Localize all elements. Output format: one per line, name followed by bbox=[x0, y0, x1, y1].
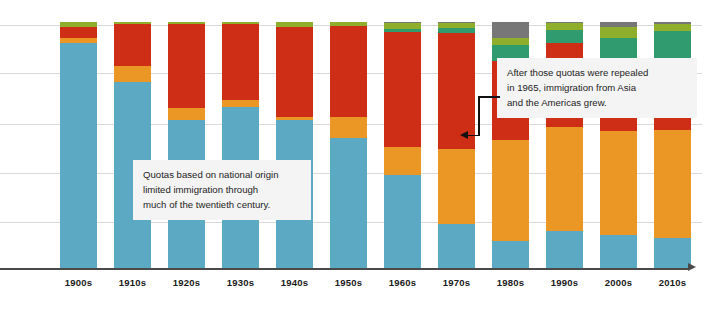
x-tick-2010s: 2010s bbox=[646, 277, 700, 288]
bar-segment bbox=[384, 147, 421, 174]
x-tick-1960s: 1960s bbox=[376, 277, 430, 288]
x-axis-arrow-icon bbox=[688, 263, 696, 271]
bar-segment bbox=[492, 22, 529, 38]
bar-segment bbox=[438, 33, 475, 149]
bar-segment bbox=[114, 24, 151, 66]
bar-segment bbox=[546, 23, 583, 30]
bar-segment bbox=[330, 26, 367, 117]
callout-arrow-icon bbox=[460, 131, 468, 139]
bar-1900s bbox=[60, 22, 97, 268]
bar-1920s bbox=[168, 22, 205, 268]
x-tick-1930s: 1930s bbox=[214, 277, 268, 288]
bar-segment bbox=[222, 100, 259, 107]
x-tick-1910s: 1910s bbox=[106, 277, 160, 288]
bar-segment bbox=[492, 140, 529, 241]
bar-segment bbox=[276, 27, 313, 117]
bar-segment bbox=[60, 43, 97, 268]
callout-connector-segment bbox=[478, 96, 500, 98]
bar-1930s bbox=[222, 22, 259, 268]
stacked-bar-chart: 1900s1910s1920s1930s1940s1950s1960s1970s… bbox=[0, 0, 718, 314]
bar-segment bbox=[168, 108, 205, 120]
bar-segment bbox=[546, 30, 583, 42]
callout-connector-segment bbox=[478, 96, 480, 136]
bar-segment bbox=[600, 27, 637, 38]
annotation-quotas: Quotas based on national origin limited … bbox=[133, 160, 311, 220]
bar-1970s bbox=[438, 22, 475, 268]
bar-segment bbox=[438, 149, 475, 224]
bar-segment bbox=[384, 175, 421, 268]
bar-segment bbox=[546, 127, 583, 231]
x-tick-1950s: 1950s bbox=[322, 277, 376, 288]
bar-segment bbox=[438, 224, 475, 268]
x-tick-1990s: 1990s bbox=[538, 277, 592, 288]
bar-segment bbox=[114, 66, 151, 82]
bar-segment bbox=[600, 235, 637, 268]
bar-1960s bbox=[384, 22, 421, 268]
bar-segment bbox=[654, 130, 691, 238]
bar-1940s bbox=[276, 22, 313, 268]
bar-segment bbox=[384, 32, 421, 148]
bar-segment bbox=[60, 27, 97, 38]
bar-segment bbox=[168, 24, 205, 108]
bar-segment bbox=[492, 241, 529, 268]
bar-1910s bbox=[114, 22, 151, 268]
bar-1950s bbox=[330, 22, 367, 268]
x-tick-1980s: 1980s bbox=[484, 277, 538, 288]
x-axis-line bbox=[0, 268, 690, 270]
bar-segment bbox=[222, 24, 259, 99]
x-tick-1920s: 1920s bbox=[160, 277, 214, 288]
bar-segment bbox=[654, 238, 691, 268]
bar-segment bbox=[330, 138, 367, 268]
x-tick-1970s: 1970s bbox=[430, 277, 484, 288]
x-tick-2000s: 2000s bbox=[592, 277, 646, 288]
bar-segment bbox=[492, 38, 529, 45]
x-tick-1940s: 1940s bbox=[268, 277, 322, 288]
annotation-repealed: After those quotas were repealed in 1965… bbox=[497, 58, 697, 118]
bar-segment bbox=[546, 231, 583, 268]
bar-segment bbox=[600, 131, 637, 234]
bar-segment bbox=[330, 117, 367, 138]
x-tick-1900s: 1900s bbox=[52, 277, 106, 288]
